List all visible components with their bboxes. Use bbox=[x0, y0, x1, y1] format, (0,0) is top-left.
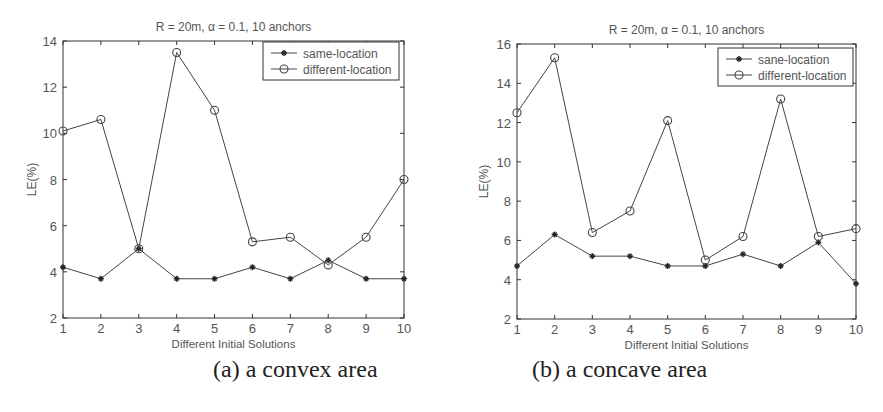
y-tick-label: 12 bbox=[497, 116, 511, 131]
x-tick-label: 10 bbox=[849, 322, 863, 337]
y-tick-label: 10 bbox=[497, 155, 511, 170]
chart-title: R = 20m, α = 0.1, 10 anchors bbox=[156, 20, 312, 34]
asterisk-marker bbox=[589, 253, 595, 259]
y-tick-label: 14 bbox=[497, 76, 511, 91]
series-different-location bbox=[59, 49, 408, 269]
asterisk-marker bbox=[212, 276, 218, 282]
y-tick-label: 4 bbox=[50, 265, 57, 280]
legend-label: different-location bbox=[758, 69, 847, 83]
x-tick-label: 2 bbox=[97, 321, 104, 336]
y-tick-label: 14 bbox=[43, 34, 57, 49]
x-tick-label: 8 bbox=[325, 321, 332, 336]
y-tick-label: 8 bbox=[504, 194, 511, 209]
y-tick-label: 4 bbox=[504, 273, 511, 288]
plot-area-frame bbox=[63, 41, 404, 318]
asterisk-marker bbox=[401, 276, 407, 282]
y-tick-label: 6 bbox=[504, 233, 511, 248]
x-tick-label: 1 bbox=[59, 321, 66, 336]
y-tick-label: 8 bbox=[50, 173, 57, 188]
series-line bbox=[63, 53, 404, 265]
legend: same-locationdifferent-location bbox=[263, 42, 399, 80]
asterisk-marker bbox=[740, 251, 746, 257]
x-tick-label: 7 bbox=[287, 321, 294, 336]
legend: sane-locationdifferent-location bbox=[718, 48, 853, 86]
x-tick-label: 5 bbox=[664, 322, 671, 337]
y-tick-label: 6 bbox=[50, 219, 57, 234]
x-tick-label: 7 bbox=[739, 322, 746, 337]
x-tick-label: 3 bbox=[589, 322, 596, 337]
caption-concave-area: (b) a concave area bbox=[532, 356, 707, 383]
x-tick-label: 10 bbox=[397, 321, 411, 336]
x-tick-label: 1 bbox=[513, 322, 520, 337]
y-axis-label: LE(%) bbox=[25, 163, 39, 196]
x-axis-label: Different Initial Solutions bbox=[172, 338, 296, 350]
y-tick-label: 12 bbox=[43, 80, 57, 95]
x-tick-label: 4 bbox=[173, 321, 180, 336]
series-same-location bbox=[60, 246, 407, 282]
asterisk-marker bbox=[778, 263, 784, 269]
y-tick-label: 2 bbox=[50, 311, 57, 326]
y-tick-label: 2 bbox=[504, 312, 511, 327]
legend-label: different-location bbox=[303, 63, 392, 77]
asterisk-marker bbox=[627, 253, 633, 259]
chart-title: R = 20m, α = 0.1, 10 anchors bbox=[609, 23, 765, 37]
x-axis-label: Different Initial Solutions bbox=[625, 339, 749, 351]
chart-concave-area: R = 20m, α = 0.1, 10 anchors246810121416… bbox=[477, 23, 863, 351]
asterisk-marker bbox=[287, 276, 293, 282]
x-tick-label: 4 bbox=[626, 322, 633, 337]
asterisk-marker bbox=[665, 263, 671, 269]
x-tick-label: 9 bbox=[815, 322, 822, 337]
series-sane-location bbox=[514, 232, 859, 287]
x-tick-label: 5 bbox=[211, 321, 218, 336]
chart-convex-area: R = 20m, α = 0.1, 10 anchors246810121412… bbox=[25, 20, 411, 350]
x-tick-label: 2 bbox=[551, 322, 558, 337]
legend-label: same-location bbox=[303, 47, 378, 61]
x-tick-label: 6 bbox=[702, 322, 709, 337]
y-axis-label: LE(%) bbox=[477, 165, 491, 198]
asterisk-marker bbox=[325, 257, 331, 263]
figure-canvas: R = 20m, α = 0.1, 10 anchors246810121412… bbox=[0, 0, 883, 412]
asterisk-marker bbox=[249, 264, 255, 270]
series-line bbox=[517, 235, 856, 284]
legend-label: sane-location bbox=[758, 53, 829, 67]
caption-convex-area: (a) a convex area bbox=[213, 356, 378, 383]
x-tick-label: 8 bbox=[777, 322, 784, 337]
x-tick-label: 3 bbox=[135, 321, 142, 336]
x-tick-label: 9 bbox=[362, 321, 369, 336]
x-tick-label: 6 bbox=[249, 321, 256, 336]
series-line bbox=[517, 58, 856, 260]
y-tick-label: 10 bbox=[43, 126, 57, 141]
x-axis: 12345678910 bbox=[513, 44, 863, 337]
asterisk-marker bbox=[60, 264, 66, 270]
x-axis: 12345678910 bbox=[59, 41, 411, 336]
series-line bbox=[63, 249, 404, 279]
y-tick-label: 16 bbox=[497, 37, 511, 52]
asterisk-marker bbox=[363, 276, 369, 282]
